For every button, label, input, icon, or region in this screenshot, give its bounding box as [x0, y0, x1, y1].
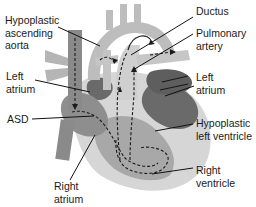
label-left-atrium-right: Left atrium	[196, 71, 225, 96]
brachiocephalic-artery	[106, 10, 113, 30]
label-ductus: Ductus	[196, 5, 229, 18]
inferior-vena-cava	[55, 119, 74, 161]
label-asd: ASD	[7, 113, 29, 126]
left-carotid-artery	[120, 4, 127, 26]
label-right-ventricle: Right ventricle	[196, 164, 235, 189]
label-hypoplastic-ascending-aorta: Hypoplastic ascending aorta	[5, 14, 59, 52]
label-pulmonary-artery: Pulmonary artery	[196, 27, 246, 52]
left-atrium-right	[146, 69, 192, 94]
pulmonary-veins-left	[45, 50, 68, 82]
label-hypoplastic-left-ventricle: Hypoplastic left ventricle	[196, 117, 252, 142]
label-right-atrium: Right atrium	[54, 180, 83, 205]
left-subclavian-artery	[134, 4, 141, 26]
hypoplastic-ascending-aorta	[103, 50, 111, 90]
label-left-atrium-left: Left atrium	[6, 70, 35, 95]
